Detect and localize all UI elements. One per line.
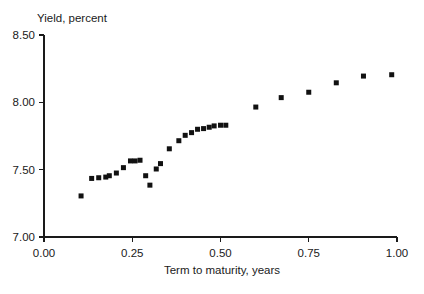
x-tick-label: 0.50 [209, 247, 231, 259]
data-point [306, 90, 311, 95]
y-tick-label: 8.00 [13, 96, 35, 108]
data-point [218, 123, 223, 128]
x-tick-label: 0.75 [298, 247, 320, 259]
data-point [158, 161, 163, 166]
data-point [201, 126, 206, 131]
data-point-group [79, 72, 395, 198]
data-point [334, 80, 339, 85]
data-point [212, 123, 217, 128]
x-tick-label: 0.25 [121, 247, 143, 259]
data-point [361, 74, 366, 79]
data-point [195, 127, 200, 132]
y-tick-label: 8.50 [13, 29, 35, 41]
data-point [223, 123, 228, 128]
data-point [143, 173, 148, 178]
y-axis-title: Yield, percent [37, 12, 108, 24]
data-point [96, 175, 101, 180]
data-point [189, 130, 194, 135]
scatter-plot: Yield, percent 7.007.508.008.50 0.000.25… [0, 0, 424, 294]
data-point [79, 193, 84, 198]
data-point [207, 125, 212, 130]
data-point [183, 133, 188, 138]
data-point [147, 183, 152, 188]
data-point [114, 171, 119, 176]
x-tick-label: 0.00 [33, 247, 55, 259]
data-point [128, 158, 133, 163]
data-point [167, 146, 172, 151]
chart-container: Yield, percent 7.007.508.008.50 0.000.25… [0, 0, 424, 294]
data-point [138, 158, 143, 163]
x-axis-title: Term to maturity, years [164, 264, 280, 276]
data-point [133, 158, 138, 163]
data-point [89, 176, 94, 181]
data-point [176, 138, 181, 143]
y-axis-ticks: 7.007.508.008.50 [13, 29, 44, 243]
x-tick-label: 1.00 [386, 247, 408, 259]
data-point [154, 166, 159, 171]
data-point [253, 105, 258, 110]
x-axis-ticks: 0.000.250.500.751.00 [33, 237, 408, 259]
y-tick-label: 7.00 [13, 231, 35, 243]
data-point [107, 173, 112, 178]
data-point [279, 95, 284, 100]
y-tick-label: 7.50 [13, 164, 35, 176]
data-point [389, 72, 394, 77]
data-point [121, 165, 126, 170]
